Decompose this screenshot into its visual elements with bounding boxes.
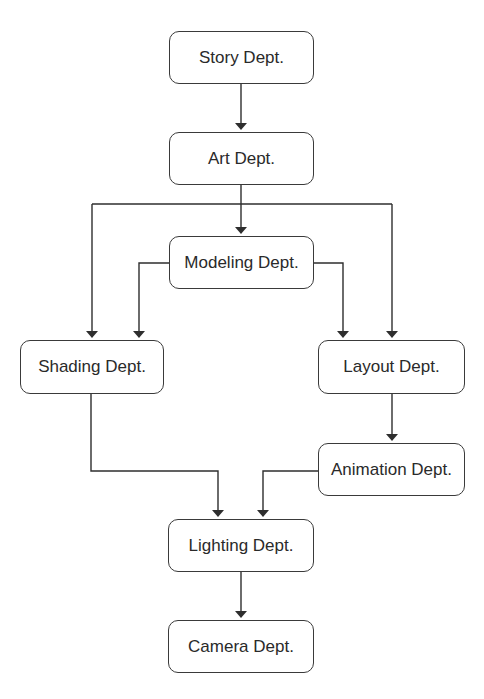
node-label: Story Dept. bbox=[199, 48, 284, 68]
node-label: Layout Dept. bbox=[343, 357, 439, 377]
edge-modeling-to-shading bbox=[139, 263, 169, 332]
arrowhead-icon bbox=[86, 331, 98, 338]
edge-animation-to-lighting bbox=[263, 471, 318, 511]
node-label: Shading Dept. bbox=[38, 357, 146, 377]
node-label: Art Dept. bbox=[208, 149, 275, 169]
node-art-dept: Art Dept. bbox=[169, 132, 314, 185]
node-label: Camera Dept. bbox=[188, 637, 294, 657]
department-pipeline-flowchart: Story Dept. Art Dept. Modeling Dept. Sha… bbox=[0, 0, 484, 699]
node-label: Animation Dept. bbox=[331, 460, 452, 480]
node-camera-dept: Camera Dept. bbox=[168, 620, 314, 673]
arrowhead-icon bbox=[133, 331, 145, 338]
arrowhead-icon bbox=[386, 434, 398, 441]
node-story-dept: Story Dept. bbox=[169, 31, 314, 84]
arrowhead-icon bbox=[386, 331, 398, 338]
node-label: Modeling Dept. bbox=[184, 253, 298, 273]
node-modeling-dept: Modeling Dept. bbox=[169, 236, 314, 289]
arrowhead-icon bbox=[257, 510, 269, 517]
node-label: Lighting Dept. bbox=[189, 536, 294, 556]
node-lighting-dept: Lighting Dept. bbox=[168, 519, 314, 572]
arrowhead-icon bbox=[212, 510, 224, 517]
node-animation-dept: Animation Dept. bbox=[318, 443, 465, 496]
arrowhead-icon bbox=[235, 227, 247, 234]
node-shading-dept: Shading Dept. bbox=[20, 340, 164, 394]
arrowhead-icon bbox=[235, 611, 247, 618]
node-layout-dept: Layout Dept. bbox=[318, 340, 465, 394]
arrowhead-icon bbox=[235, 123, 247, 130]
arrowhead-icon bbox=[337, 331, 349, 338]
edge-shading-to-lighting bbox=[91, 394, 218, 511]
edge-modeling-to-layout bbox=[314, 263, 343, 332]
